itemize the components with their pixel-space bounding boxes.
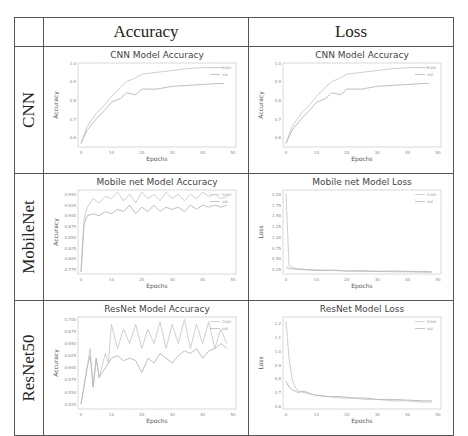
chart-svg: ResNet Model Loss010203040500.60.70.80.9… (249, 301, 453, 431)
svg-text:10: 10 (314, 412, 320, 417)
svg-text:50: 50 (435, 277, 441, 282)
svg-text:1.75: 1.75 (272, 203, 281, 208)
chart-svg: CNN Model Accuracy010203040500.60.70.80.… (249, 47, 453, 169)
svg-text:0.8: 0.8 (70, 98, 77, 103)
row-label-text: MobileNet (19, 200, 39, 274)
svg-text:0.25: 0.25 (272, 267, 281, 272)
chart-cnn-loss-cell: CNN Model Accuracy010203040500.60.70.80.… (249, 47, 454, 174)
svg-text:train: train (222, 192, 232, 197)
chart-resnet-accuracy: ResNet Model Accuracy010203040500.5250.5… (44, 301, 249, 436)
svg-text:Epochs: Epochs (146, 155, 168, 163)
svg-text:0.875: 0.875 (65, 224, 77, 229)
svg-text:CNN Model Accuracy: CNN Model Accuracy (315, 50, 409, 60)
svg-text:0: 0 (285, 150, 288, 155)
chart-svg: Mobile net Model Loss010203040500.250.50… (249, 174, 453, 296)
svg-text:10: 10 (314, 277, 320, 282)
svg-text:0: 0 (285, 277, 288, 282)
row-label-resnet50: ResNet50 (15, 301, 44, 436)
svg-text:30: 30 (375, 412, 381, 417)
svg-text:1.2: 1.2 (275, 321, 282, 326)
svg-text:1.25: 1.25 (272, 224, 281, 229)
svg-text:Loss: Loss (257, 225, 264, 238)
row-label-text: CNN (19, 92, 39, 128)
svg-text:30: 30 (170, 412, 176, 417)
svg-text:Mobile net Model Loss: Mobile net Model Loss (312, 177, 412, 187)
svg-text:0.8: 0.8 (275, 98, 282, 103)
svg-text:40: 40 (200, 412, 206, 417)
svg-text:30: 30 (375, 277, 381, 282)
svg-text:0.9: 0.9 (70, 79, 77, 84)
chart-svg: Mobile net Model Accuracy010203040500.77… (44, 174, 248, 296)
chart-resnet-loss: ResNet Model Loss010203040500.60.70.80.9… (249, 301, 454, 436)
svg-text:20: 20 (344, 150, 350, 155)
chart-svg: ResNet Model Accuracy010203040500.5250.5… (44, 301, 248, 431)
svg-text:0.8: 0.8 (275, 376, 282, 381)
chart-cnn-accuracy: CNN Model Accuracy010203040500.60.70.80.… (44, 47, 249, 174)
chart-svg: CNN Model Accuracy010203040500.60.70.80.… (44, 47, 248, 169)
svg-text:0.800: 0.800 (65, 256, 77, 261)
svg-text:val: val (222, 199, 228, 204)
svg-text:30: 30 (170, 150, 176, 155)
svg-text:0.6: 0.6 (275, 404, 282, 409)
svg-text:val: val (427, 72, 433, 77)
svg-text:0.850: 0.850 (65, 235, 77, 240)
svg-text:ResNet Model Loss: ResNet Model Loss (320, 304, 405, 314)
svg-text:20: 20 (139, 150, 145, 155)
svg-text:30: 30 (170, 277, 176, 282)
svg-text:0.9: 0.9 (275, 79, 282, 84)
svg-text:0.525: 0.525 (65, 402, 77, 407)
svg-text:40: 40 (405, 412, 411, 417)
svg-text:0: 0 (285, 412, 288, 417)
svg-text:Accuracy: Accuracy (257, 91, 265, 119)
chart-mobilenet-accuracy: Mobile net Model Accuracy010203040500.77… (44, 174, 249, 301)
svg-text:Accuracy: Accuracy (52, 91, 60, 119)
svg-text:30: 30 (375, 150, 381, 155)
svg-text:Epochs: Epochs (351, 155, 373, 163)
svg-text:50: 50 (230, 412, 236, 417)
svg-text:40: 40 (405, 150, 411, 155)
svg-text:10: 10 (109, 277, 115, 282)
svg-text:0.9: 0.9 (275, 363, 282, 368)
svg-text:Loss: Loss (257, 356, 264, 369)
svg-text:CNN Model Accuracy: CNN Model Accuracy (110, 50, 204, 60)
corner-cell (15, 18, 44, 47)
svg-text:train: train (222, 65, 232, 70)
svg-text:1.50: 1.50 (272, 213, 281, 218)
svg-text:0: 0 (80, 412, 83, 417)
svg-text:Epochs: Epochs (351, 417, 373, 425)
svg-text:0.7: 0.7 (275, 390, 282, 395)
svg-text:20: 20 (344, 277, 350, 282)
svg-text:0: 0 (80, 150, 83, 155)
figure-table: Accuracy Loss CNN CNN Model Accuracy0102… (14, 17, 454, 436)
svg-text:0.550: 0.550 (65, 390, 77, 395)
svg-text:0.600: 0.600 (65, 365, 77, 370)
svg-text:1.1: 1.1 (275, 335, 282, 340)
svg-text:0: 0 (80, 277, 83, 282)
svg-text:0.625: 0.625 (65, 353, 77, 358)
row-label-mobilenet: MobileNet (15, 174, 44, 301)
svg-text:Epochs: Epochs (146, 417, 168, 425)
svg-text:50: 50 (230, 150, 236, 155)
svg-text:10: 10 (109, 412, 115, 417)
svg-text:0.700: 0.700 (65, 317, 77, 322)
svg-text:1.0: 1.0 (275, 349, 282, 354)
svg-text:Epochs: Epochs (351, 282, 373, 290)
svg-text:val: val (222, 326, 228, 331)
svg-text:10: 10 (109, 150, 115, 155)
svg-text:0.7: 0.7 (275, 117, 282, 122)
svg-text:20: 20 (139, 277, 145, 282)
svg-text:0.775: 0.775 (65, 267, 77, 272)
svg-text:0.575: 0.575 (65, 377, 77, 382)
page-text-fragment (0, 0, 468, 8)
svg-text:2.00: 2.00 (272, 192, 281, 197)
svg-text:0.950: 0.950 (65, 192, 77, 197)
svg-text:0.925: 0.925 (65, 203, 77, 208)
svg-text:40: 40 (200, 277, 206, 282)
svg-text:val: val (222, 72, 228, 77)
svg-text:1.0: 1.0 (275, 61, 282, 66)
svg-text:ResNet Model Accuracy: ResNet Model Accuracy (104, 304, 210, 314)
svg-text:20: 20 (139, 412, 145, 417)
row-label-text: ResNet50 (19, 334, 39, 401)
chart-mobilenet-loss: Mobile net Model Loss010203040500.250.50… (249, 174, 454, 301)
svg-text:train: train (222, 319, 232, 324)
